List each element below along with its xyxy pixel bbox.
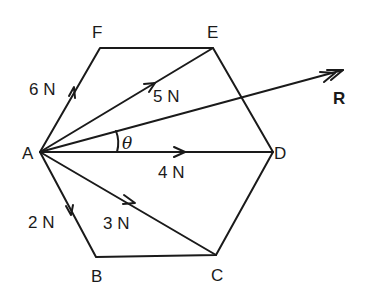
vertex-label-d: D [274, 144, 286, 163]
force-label-4n: 4 N [158, 163, 184, 182]
hexagon-force-diagram: A B C D E F 6 N 5 N 4 N 3 N 2 N R θ [0, 0, 366, 305]
force-label-5n: 5 N [153, 87, 179, 106]
resultant-line [40, 70, 343, 152]
vertex-label-e: E [207, 23, 218, 42]
vertex-label-f: F [92, 23, 102, 42]
vertex-label-a: A [22, 144, 34, 163]
theta-arc [116, 131, 118, 152]
resultant-label: R [333, 89, 345, 108]
resultant-arrowhead-inner-icon [320, 72, 335, 82]
force-label-3n: 3 N [103, 214, 129, 233]
vertex-label-b: B [91, 267, 102, 286]
vertex-label-c: C [211, 266, 223, 285]
force-label-2n: 2 N [28, 213, 54, 232]
force-label-6n: 6 N [29, 80, 55, 99]
theta-label: θ [122, 133, 132, 153]
